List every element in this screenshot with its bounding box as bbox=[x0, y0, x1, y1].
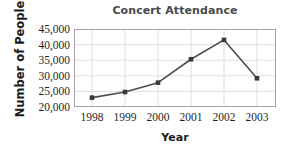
plot-area bbox=[74, 29, 276, 107]
x-axis-label: Year bbox=[74, 131, 276, 144]
y-tick-label: 40,000 bbox=[26, 39, 70, 51]
data-point-marker bbox=[255, 76, 260, 81]
x-tick-label: 2003 bbox=[240, 111, 274, 123]
plot-svg bbox=[74, 29, 276, 107]
y-tick-label: 30,000 bbox=[26, 70, 70, 82]
x-tick-label: 1998 bbox=[75, 111, 109, 123]
y-axis-label: Number of People bbox=[13, 0, 27, 119]
data-point-marker bbox=[90, 95, 95, 100]
data-point-marker bbox=[189, 57, 194, 62]
data-point-marker bbox=[123, 90, 128, 95]
y-axis-tick-labels: 45,000 40,000 35,000 30,000 25,000 20,00… bbox=[26, 23, 70, 115]
data-point-marker bbox=[156, 80, 161, 85]
x-tick-label: 1999 bbox=[108, 111, 142, 123]
data-point-marker bbox=[222, 38, 227, 43]
y-tick-label: 25,000 bbox=[26, 85, 70, 97]
y-tick-label: 35,000 bbox=[26, 54, 70, 66]
x-tick-label: 2000 bbox=[141, 111, 175, 123]
concert-attendance-line-chart: Concert Attendance Number of People 45,0… bbox=[0, 0, 286, 151]
chart-title: Concert Attendance bbox=[74, 4, 276, 17]
x-tick-label: 2001 bbox=[174, 111, 208, 123]
y-tick-label: 45,000 bbox=[26, 23, 70, 35]
x-axis-tick-labels: 1998 1999 2000 2001 2002 2003 bbox=[60, 111, 286, 129]
x-tick-label: 2002 bbox=[207, 111, 241, 123]
